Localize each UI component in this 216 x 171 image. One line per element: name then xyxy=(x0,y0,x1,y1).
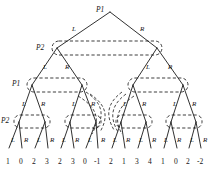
edge-l4-1-L xyxy=(35,122,45,148)
game-tree-canvas xyxy=(0,0,216,171)
edge-l4-6-R xyxy=(171,122,177,148)
player-label-root-p1: P1 xyxy=(96,6,104,14)
leaf-payoff-4: 2 xyxy=(58,158,62,166)
branch-label-l-4: L xyxy=(146,64,150,71)
branch-label-l-10: L xyxy=(123,101,127,108)
edge-root-L xyxy=(57,12,110,48)
leaf-payoff-15: -2 xyxy=(197,158,203,166)
branch-label-l-12: L xyxy=(173,101,177,108)
leaf-payoff-10: 3 xyxy=(135,158,139,166)
leaf-payoff-8: 2 xyxy=(109,158,113,166)
infoset-level2 xyxy=(52,41,162,55)
branch-label-r-21: R xyxy=(101,137,105,144)
player-label-level4-p2: P2 xyxy=(1,117,9,125)
edge-l2-1-L xyxy=(133,48,157,85)
branch-label-l-28: L xyxy=(190,137,194,144)
branch-label-r-19: R xyxy=(75,137,79,144)
leaf-payoff-2: 2 xyxy=(32,158,36,166)
leaf-payoff-12: 1 xyxy=(161,158,165,166)
edge-l4-1-R xyxy=(45,122,48,148)
edge-l4-3-L xyxy=(86,122,96,148)
branch-label-l-6: L xyxy=(22,101,26,108)
edge-l4-2-R xyxy=(70,122,74,148)
branch-label-l-8: L xyxy=(72,101,76,108)
branch-label-r-27: R xyxy=(177,137,181,144)
edge-l4-4-L xyxy=(112,122,121,148)
branch-label-r-3: R xyxy=(65,64,69,71)
branch-label-l-22: L xyxy=(113,137,117,144)
branch-label-l-14: L xyxy=(11,137,15,144)
branch-label-r-23: R xyxy=(126,137,130,144)
branch-label-l-18: L xyxy=(62,137,66,144)
edge-l2-0-R xyxy=(57,48,82,85)
infoset-level3-right xyxy=(128,78,188,92)
branch-label-l-26: L xyxy=(164,137,168,144)
branch-label-l-0: L xyxy=(72,26,76,33)
leaf-payoff-7: -1 xyxy=(94,158,100,166)
leaf-payoff-9: 1 xyxy=(122,158,126,166)
branch-label-l-2: L xyxy=(43,64,47,71)
edge-l4-4-R xyxy=(121,122,125,148)
edge-l4-0-L xyxy=(9,122,19,148)
player-label-level2-p2: P2 xyxy=(36,44,44,52)
information-set-boxes xyxy=(14,41,202,128)
branch-label-r-5: R xyxy=(168,64,172,71)
edge-root-R xyxy=(110,12,157,48)
player-label-level3-p1: P1 xyxy=(12,80,20,88)
leaf-payoff-14: 2 xyxy=(186,158,190,166)
branch-label-r-9: R xyxy=(91,101,95,108)
edge-l4-7-L xyxy=(189,122,196,148)
branch-label-l-16: L xyxy=(37,137,41,144)
edge-l4-0-R xyxy=(19,122,22,148)
leaf-payoff-11: 4 xyxy=(148,158,152,166)
branch-label-r-25: R xyxy=(152,137,156,144)
branch-label-r-1: R xyxy=(140,26,144,33)
infoset-link-curve-0 xyxy=(86,92,101,130)
leaf-payoff-0: 1 xyxy=(6,158,10,166)
infoset-level3-left xyxy=(27,78,87,92)
branch-label-r-17: R xyxy=(50,137,54,144)
leaf-payoff-5: 3 xyxy=(71,158,75,166)
leaf-payoff-6: 0 xyxy=(83,158,87,166)
branch-label-l-20: L xyxy=(88,137,92,144)
leaf-payoff-1: 0 xyxy=(19,158,23,166)
edge-l4-2-L xyxy=(61,122,70,148)
branch-label-r-29: R xyxy=(203,137,207,144)
branch-label-r-13: R xyxy=(192,101,196,108)
information-set-cross-links xyxy=(78,92,134,134)
branch-label-r-11: R xyxy=(142,101,146,108)
branch-label-l-24: L xyxy=(139,137,143,144)
leaf-payoff-13: 0 xyxy=(174,158,178,166)
leaf-payoff-3: 3 xyxy=(45,158,49,166)
edge-l4-5-L xyxy=(138,122,146,148)
branch-label-r-7: R xyxy=(41,101,45,108)
game-tree-figure: LRLRLRLRLRLRLRLRLRLRLRLRLRLRLR P1P2P1P2 … xyxy=(0,0,216,171)
branch-label-r-15: R xyxy=(24,137,28,144)
